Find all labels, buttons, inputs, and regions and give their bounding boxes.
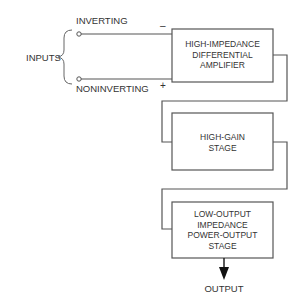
svg-text:DIFFERENTIAL: DIFFERENTIAL	[192, 50, 253, 60]
output-label: OUTPUT	[204, 283, 243, 294]
inputs-label: INPUTS	[26, 52, 61, 63]
svg-text:LOW-OUTPUT: LOW-OUTPUT	[194, 209, 251, 219]
minus-sign: –	[160, 20, 166, 31]
inverting-label: INVERTING	[76, 15, 128, 26]
plus-sign: +	[160, 80, 166, 91]
svg-text:IMPEDANCE: IMPEDANCE	[197, 220, 248, 230]
noninverting-label: NONINVERTING	[76, 83, 149, 94]
svg-text:STAGE: STAGE	[208, 143, 237, 153]
stage-power-output: LOW-OUTPUT IMPEDANCE POWER-OUTPUT STAGE	[172, 202, 273, 258]
svg-text:AMPLIFIER: AMPLIFIER	[200, 60, 245, 70]
output-arrow-icon	[219, 267, 229, 280]
inverting-terminal-icon	[77, 32, 81, 36]
svg-text:STAGE: STAGE	[208, 241, 237, 251]
stage-differential-amplifier: HIGH-IMPEDANCE DIFFERENTIAL AMPLIFIER	[172, 29, 273, 82]
noninverting-terminal-icon	[77, 77, 81, 81]
svg-text:HIGH-IMPEDANCE: HIGH-IMPEDANCE	[185, 39, 260, 49]
svg-text:POWER-OUTPUT: POWER-OUTPUT	[188, 230, 258, 240]
svg-text:HIGH-GAIN: HIGH-GAIN	[200, 132, 245, 142]
op-amp-block-diagram: INPUTS INVERTING – NONINVERTING + HIGH-I…	[0, 0, 306, 305]
stage-high-gain: HIGH-GAIN STAGE	[172, 113, 273, 170]
